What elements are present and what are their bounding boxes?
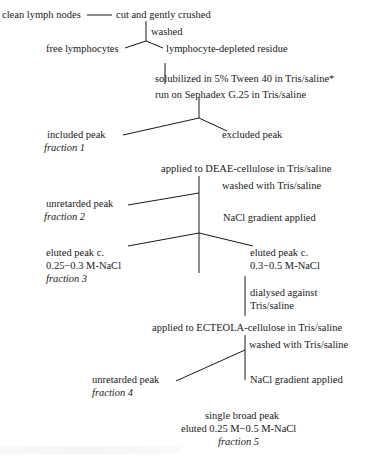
fractionation-flowchart: clean lymph nodes cut and gently crushed… [0, 0, 370, 456]
step-deae: applied to DEAE-cellulose in Tris/saline [161, 163, 331, 175]
node-single-broad-peak: single broad peak [205, 410, 279, 422]
label-dialysed-line1: dialysed against [250, 287, 317, 299]
node-eluted-peak-b-line1: eluted peak c. [250, 247, 308, 259]
node-eluted-peak-b-line2: 0.3−0.5 M-NaCl [250, 260, 320, 272]
label-fraction-4: fraction 4 [92, 387, 133, 399]
step-ecteola: applied to ECTEOLA-cellulose in Tris/sal… [152, 322, 342, 334]
label-fraction-5: fraction 5 [218, 436, 259, 448]
node-single-peak-elution: eluted 0.25 M−0.5 M-NaCl [181, 423, 296, 435]
step-sephadex: run on Sephadex G.25 in Tris/saline [155, 89, 306, 101]
node-eluted-peak-3-line1: eluted peak c. [46, 247, 104, 259]
cropped-caption [0, 446, 180, 454]
label-fraction-1: fraction 1 [44, 142, 85, 154]
label-deae-wash: washed with Tris/saline [222, 180, 321, 192]
label-fraction-3: fraction 3 [46, 273, 87, 285]
step-solubilized: solubilized in 5% Tween 40 in Tris/salin… [155, 73, 334, 85]
label-ecteola-gradient: NaCl gradient applied [250, 374, 343, 386]
node-unretarded-peak-4: unretarded peak [92, 374, 159, 386]
label-fraction-2: fraction 2 [44, 211, 85, 223]
connector-lines [0, 0, 370, 456]
label-dialysed-line2: Tris/saline [250, 300, 294, 312]
node-free-lymphocytes: free lymphocytes [46, 43, 119, 55]
node-clean-lymph-nodes: clean lymph nodes [2, 9, 81, 21]
label-ecteola-wash: washed with Tris/saline [249, 339, 348, 351]
label-deae-gradient: NaCl gradient applied [223, 212, 316, 224]
node-included-peak: included peak [47, 129, 106, 141]
node-cut-crushed: cut and gently crushed [116, 9, 211, 21]
node-unretarded-peak-2: unretarded peak [46, 198, 113, 210]
node-residue: lymphocyte-depleted residue [166, 43, 288, 55]
node-eluted-peak-3-line2: 0.25−0.3 M-NaCl [46, 260, 121, 272]
node-excluded-peak: excluded peak [222, 129, 282, 141]
label-washed: washed [151, 26, 183, 38]
